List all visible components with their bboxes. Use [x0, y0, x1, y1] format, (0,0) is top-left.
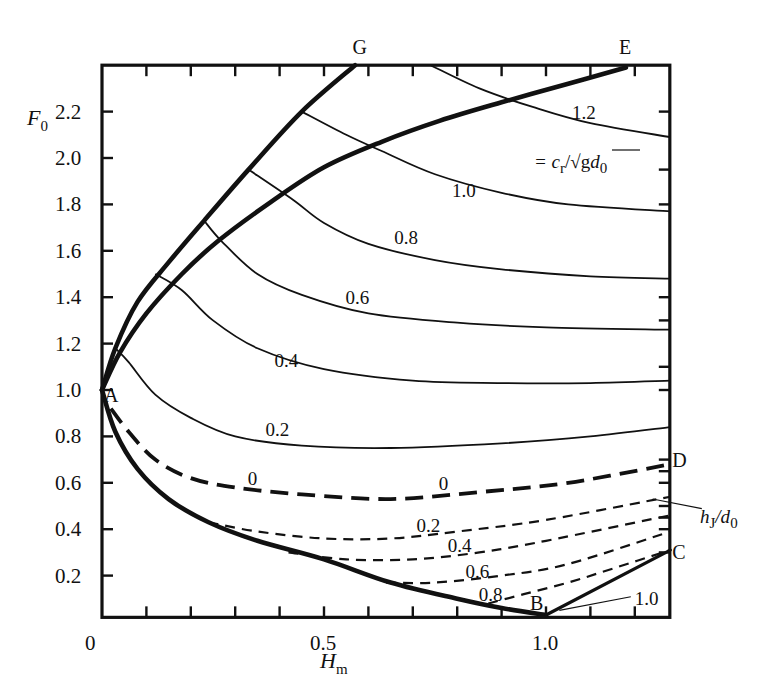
boundary-curves [102, 65, 670, 615]
y-tick-label: 1.2 [55, 332, 81, 356]
point-label-g: G [353, 36, 367, 58]
boundary-a-e [102, 68, 626, 390]
y-tick-label: 1.8 [55, 192, 81, 216]
point-label-e: E [619, 36, 631, 58]
legend-jump-height-parameter: hJ/d0 [700, 506, 738, 531]
curve-label: 1.2 [572, 102, 596, 123]
parameter-curves [111, 65, 670, 603]
curve-label: 0.2 [417, 515, 441, 536]
y-tick-label: 0.4 [55, 517, 82, 541]
point-label-c: C [672, 541, 685, 563]
plot-frame-rect [102, 65, 670, 617]
y-tick-label: 1.0 [55, 378, 81, 402]
curve-label: 0.8 [394, 227, 418, 248]
point-label-b: B [530, 592, 543, 614]
extra-label: 1.0 [635, 588, 659, 609]
legend-celerity-parameter: = cr/√gd0 [534, 151, 607, 176]
curve-label: 0.4 [274, 350, 298, 371]
curve-label: 0 [248, 468, 258, 489]
plot-frame [102, 65, 670, 617]
y-tick-label: 1.6 [55, 239, 81, 263]
leader-line [653, 499, 702, 509]
curve-dash-0.4 [288, 515, 670, 560]
y-tick-label: 2.0 [55, 146, 81, 170]
curve-label: 0 [439, 473, 449, 494]
curve-solid-0.2 [115, 348, 670, 448]
curve-label: 0.6 [465, 561, 489, 582]
y-tick-label: 0.2 [55, 564, 81, 588]
curve-dash-thick-0 [111, 409, 670, 500]
curve-label: 1.0 [452, 180, 476, 201]
x-axis-title: Hm [319, 648, 348, 677]
chart: 00.51.00.20.40.60.81.01.21.41.61.82.02.2… [0, 0, 776, 699]
x-tick-label: 1.0 [532, 631, 558, 655]
curve-solid-0.6 [204, 221, 670, 330]
curve-label: 0.8 [479, 584, 503, 605]
x-tick-label: 0 [85, 631, 96, 655]
curve-label: 0.2 [266, 419, 290, 440]
curve-solid-1.0 [302, 112, 671, 212]
chart-labels: 00.51.00.20.40.60.81.01.21.41.61.82.02.2… [55, 36, 702, 655]
curve-label: 0.6 [346, 287, 370, 308]
y-tick-label: 1.4 [55, 285, 82, 309]
y-tick-label: 0.6 [55, 471, 81, 495]
point-label-a: A [104, 384, 119, 406]
y-axis-title: F0 [26, 105, 48, 134]
y-tick-label: 2.2 [55, 100, 81, 124]
boundary-a-g [102, 65, 355, 390]
point-label-d: D [672, 449, 686, 471]
curve-label: 0.4 [448, 535, 472, 556]
y-tick-label: 0.8 [55, 424, 81, 448]
